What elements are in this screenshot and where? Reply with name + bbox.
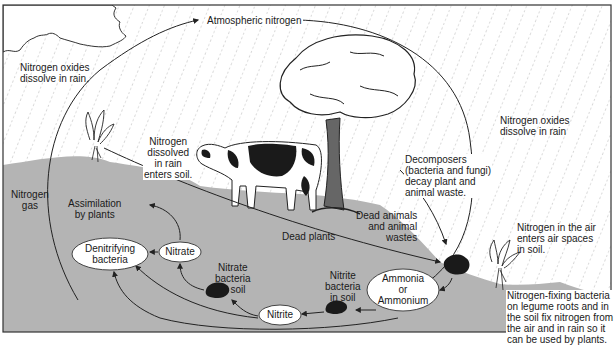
label-nitrite-bacteria: Nitrite bacteria in soil [325,270,361,303]
label-assimilation: Assimilation by plants [68,198,121,220]
nitrogen-cycle-diagram: Atmospheric nitrogen Nitrogen oxides dis… [0,0,614,348]
label-nitrogen-oxides-left: Nitrogen oxides dissolve in rain. [20,62,89,84]
node-nitrate-label: Nitrate [160,246,200,257]
label-dead-animals: Dead animals and animal wastes [356,210,417,243]
label-nitrogen-dissolved: Nitrogen dissolved in rain enters soil. [143,136,193,180]
node-denitrifying-label: Denitrifying bacteria [78,243,142,265]
node-nitrite-label: Nitrite [260,309,300,320]
label-decomposers: Decomposers (bacteria and fungi) decay p… [404,154,492,198]
label-nitrate-bacteria: Nitrate bacteria in soil [215,262,251,295]
label-nitrogen-fixing: Nitrogen-fixing bacteria on legume roots… [506,290,614,345]
label-nitrogen-gas: Nitrogen gas [11,189,49,211]
label-dead-plants: Dead plants [282,231,335,242]
label-atmospheric-nitrogen: Atmospheric nitrogen [206,15,303,26]
node-ammonia-label: Ammonia or Ammonium [370,273,436,306]
label-nitrogen-in-air: Nitrogen in the air enters air spaces in… [517,222,596,255]
label-nitrogen-oxides-right: Nitrogen oxides dissolve in rain [500,115,569,137]
